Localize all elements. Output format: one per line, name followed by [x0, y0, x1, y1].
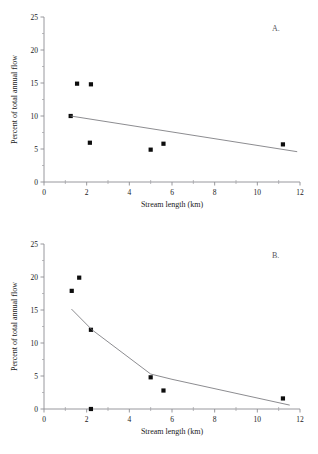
trend-line	[72, 309, 290, 405]
data-point-marker	[77, 276, 81, 280]
data-point-marker	[89, 407, 93, 411]
data-point-marker	[70, 289, 74, 293]
y-tick-label: 25	[31, 240, 39, 249]
chart-panel-a: 0510152025024681012Stream length (km)Per…	[0, 0, 318, 227]
y-tick-label: 0	[34, 405, 38, 414]
data-point-marker	[149, 148, 153, 152]
data-point-marker	[161, 142, 165, 146]
x-tick-label: 12	[296, 415, 304, 424]
data-point-marker	[161, 388, 165, 392]
chart-panel-b: 0510152025024681012Stream length (km)Per…	[0, 227, 318, 454]
y-tick-label: 25	[31, 13, 39, 22]
x-tick-label: 12	[296, 188, 304, 197]
y-axis-title: Percent of total annual flow	[10, 282, 19, 371]
x-tick-label: 10	[254, 415, 262, 424]
x-tick-label: 0	[42, 188, 46, 197]
x-tick-label: 2	[85, 188, 89, 197]
data-point-marker	[281, 142, 285, 146]
chart-a-svg: 0510152025024681012Stream length (km)Per…	[0, 0, 318, 227]
y-tick-label: 0	[34, 178, 38, 187]
panel-label: B.	[272, 251, 279, 260]
y-tick-label: 10	[31, 112, 39, 121]
y-tick-label: 5	[34, 145, 38, 154]
y-tick-label: 15	[31, 306, 39, 315]
x-tick-label: 2	[85, 415, 89, 424]
data-point-marker	[149, 375, 153, 379]
y-tick-label: 5	[34, 372, 38, 381]
data-point-marker	[75, 82, 79, 86]
y-axis-title: Percent of total annual flow	[10, 55, 19, 144]
x-tick-label: 6	[170, 188, 174, 197]
data-point-marker	[89, 82, 93, 86]
x-tick-label: 10	[254, 188, 262, 197]
x-axis-title: Stream length (km)	[141, 200, 204, 209]
x-tick-label: 4	[127, 188, 131, 197]
y-tick-label: 15	[31, 79, 39, 88]
trend-line	[71, 116, 297, 152]
x-tick-label: 8	[213, 188, 217, 197]
x-tick-label: 4	[127, 415, 131, 424]
x-axis-title: Stream length (km)	[141, 427, 204, 436]
x-tick-label: 8	[213, 415, 217, 424]
x-tick-label: 0	[42, 415, 46, 424]
y-tick-label: 20	[31, 273, 39, 282]
figure-container: 0510152025024681012Stream length (km)Per…	[0, 0, 318, 454]
y-tick-label: 10	[31, 339, 39, 348]
data-point-marker	[88, 141, 92, 145]
x-tick-label: 6	[170, 415, 174, 424]
chart-b-svg: 0510152025024681012Stream length (km)Per…	[0, 227, 318, 454]
panel-label: A.	[272, 24, 280, 33]
data-point-marker	[281, 396, 285, 400]
y-tick-label: 20	[31, 46, 39, 55]
